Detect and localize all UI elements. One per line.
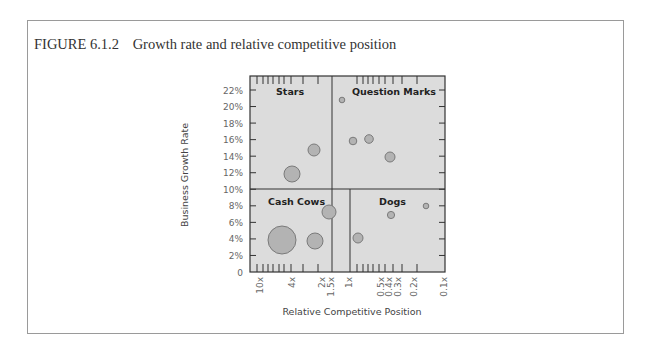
x-tick-label: 4x	[287, 276, 297, 288]
y-tick-label: 4%	[229, 234, 244, 244]
bubble	[349, 137, 357, 145]
bubble	[339, 97, 345, 103]
y-tick-label: 10%	[223, 185, 243, 195]
x-tick-label: 10x	[255, 276, 265, 293]
y-tick-labels: 02%4%6%8%10%12%14%16%18%20%22%	[223, 86, 243, 278]
bubble	[268, 226, 296, 254]
y-tick-label: 22%	[223, 86, 243, 96]
x-tick-label: 1.5x	[326, 276, 336, 296]
bubble	[322, 205, 336, 219]
quadrant-label-stars: Stars	[276, 86, 304, 97]
y-tick-label: 18%	[223, 119, 243, 129]
y-tick-label: 2%	[229, 251, 244, 261]
bubble	[353, 233, 363, 243]
y-tick-label: 16%	[223, 135, 243, 145]
bubble	[423, 203, 429, 209]
y-tick-label: 14%	[223, 152, 243, 162]
bubble	[385, 152, 395, 162]
x-tick-label: 0.1x	[439, 276, 449, 296]
x-tick-label: 1x	[344, 276, 354, 288]
bubble	[308, 144, 320, 156]
x-tick-label: 0.3x	[393, 276, 403, 296]
bubble	[307, 233, 323, 249]
y-tick-label: 0	[237, 268, 243, 278]
quadrant-label-cash-cows: Cash Cows	[268, 196, 325, 207]
x-axis-title: Relative Competitive Position	[282, 306, 421, 317]
y-tick-label: 12%	[223, 168, 243, 178]
quadrant-label-question-marks: Question Marks	[352, 86, 436, 97]
y-axis-title: Business Growth Rate	[179, 123, 190, 227]
bubble-chart: Stars Question Marks Cash Cows Dogs 02%4…	[0, 0, 650, 360]
x-tick-labels: 10x4x2x1.5x1x0.5x0.4x0.3x0.2x0.1x	[255, 276, 449, 296]
bubble	[365, 135, 374, 144]
bubble	[387, 211, 394, 218]
y-tick-label: 6%	[229, 218, 244, 228]
y-tick-label: 20%	[223, 102, 243, 112]
y-tick-label: 8%	[229, 201, 244, 211]
x-tick-label: 0.2x	[409, 276, 419, 296]
bubble	[284, 166, 300, 182]
quadrant-label-dogs: Dogs	[379, 196, 406, 207]
